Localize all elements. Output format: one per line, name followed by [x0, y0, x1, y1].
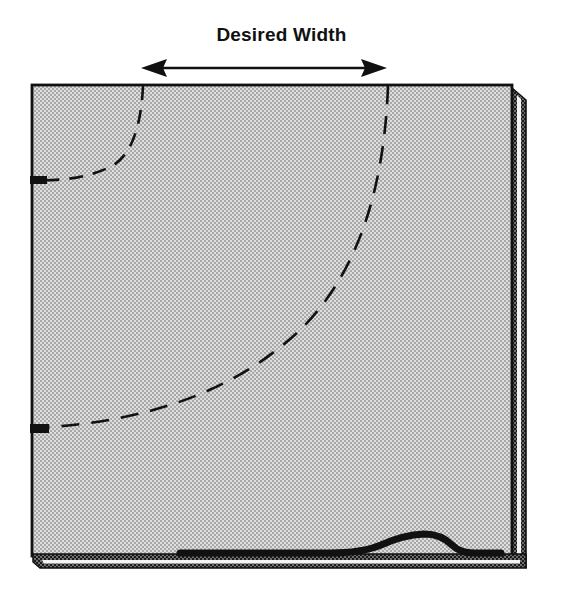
desired-width-arrow: [141, 59, 387, 77]
fabric-rectangle: [32, 85, 512, 556]
tick-upper-left: [30, 176, 47, 184]
sewing-fabric-diagram: [0, 0, 563, 607]
tick-lower-left: [30, 424, 49, 433]
bottom-hem-highlight: [42, 560, 520, 564]
right-fold-highlight: [517, 95, 521, 560]
right-selvage-fold: [512, 88, 526, 567]
